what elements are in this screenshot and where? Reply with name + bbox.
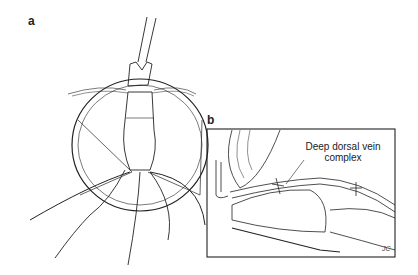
annotation-line-1: Deep dorsal vein <box>298 141 388 152</box>
panel-a-drawing <box>30 17 208 265</box>
deep-dorsal-vein-annotation: Deep dorsal vein complex <box>298 141 388 163</box>
artist-signature: JC <box>382 245 391 252</box>
illustration <box>0 0 418 275</box>
annotation-line-2: complex <box>298 152 388 163</box>
